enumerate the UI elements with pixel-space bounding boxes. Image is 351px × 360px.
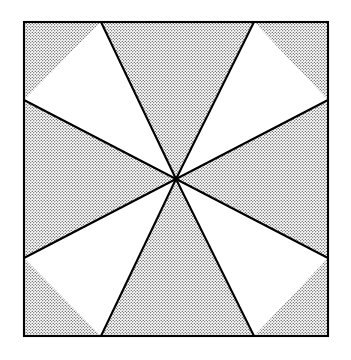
pinwheel-figure bbox=[0, 0, 351, 360]
pinwheel-center-point bbox=[175, 178, 177, 180]
figure-canvas bbox=[0, 0, 351, 360]
